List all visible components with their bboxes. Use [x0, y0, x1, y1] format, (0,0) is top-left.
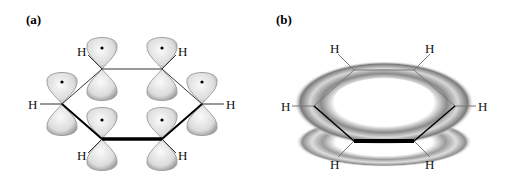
h-atom-label: H: [330, 42, 339, 55]
h-atom-label: H: [281, 100, 290, 113]
panel-b-electron-cloud: [292, 54, 476, 167]
h-atom-label: H: [178, 45, 187, 58]
h-atom-label: H: [425, 158, 434, 171]
h-atom-label: H: [330, 158, 339, 171]
h-atom-label: H: [28, 98, 37, 111]
h-atom-label: H: [478, 100, 487, 113]
h-atom-label: H: [425, 42, 434, 55]
h-atom-label: H: [226, 98, 235, 111]
h-atom-label: H: [77, 149, 86, 162]
h-atom-label: H: [178, 149, 187, 162]
panel-a-orbitals: [40, 38, 224, 171]
h-atom-label: H: [77, 45, 86, 58]
